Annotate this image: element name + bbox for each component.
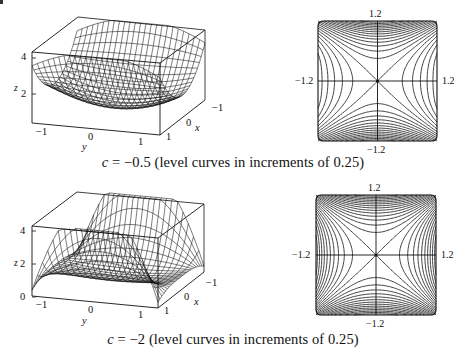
x-tick-0: 0 — [184, 292, 189, 302]
panel-bottom: 4 2 0 z −1 0 1 y −1 0 x 1 1.2 −1.2 1.2 −… — [0, 0, 466, 357]
z-tick-0: 0 — [20, 292, 25, 302]
x-tick-neg1: −1 — [206, 278, 217, 288]
caption-eq: = — [114, 331, 130, 347]
caption-bottom: c = −2 (level curves in increments of 0.… — [0, 331, 466, 348]
z-tick-4: 4 — [20, 226, 25, 236]
z-axis-label: z — [14, 258, 18, 268]
caption-rest: (level curves in increments of 0.25) — [145, 331, 358, 347]
y-tick-1: 1 — [138, 310, 143, 320]
x-tick-1: 1 — [164, 306, 169, 316]
contour-left-label: −1.2 — [292, 250, 310, 260]
y-axis-label: y — [82, 316, 87, 326]
contour-plot-bottom — [0, 0, 466, 330]
contour-bottom-label: −1.2 — [366, 319, 384, 329]
contour-top-label: 1.2 — [368, 183, 381, 193]
caption-value: −2 — [130, 331, 146, 347]
contour-right-label: 1.2 — [441, 250, 454, 260]
z-tick-2: 2 — [20, 259, 25, 269]
x-axis-label: x — [194, 297, 199, 307]
y-tick-neg1: −1 — [36, 300, 47, 310]
y-tick-0: 0 — [88, 305, 93, 315]
